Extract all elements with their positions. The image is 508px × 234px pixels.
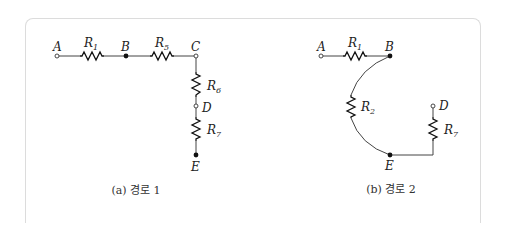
caption-path-2: (b) 경로 2 [366,183,416,196]
label-r7: R7 [206,123,222,139]
resistor-r2 [347,95,355,118]
label-node-a-b: A [316,40,326,54]
node-d [194,104,198,108]
node-d-b [431,104,435,108]
label-node-e-b: E [384,159,394,173]
label-r2: R2 [360,100,375,116]
node-e [194,153,199,158]
circuit-diagram: A B C D E R1 R5 R6 R7 (a) 경로 1 A [0,0,508,234]
label-node-b: B [120,40,130,54]
label-r7-b: R7 [443,123,459,139]
node-e-b [388,153,393,158]
label-node-a: A [52,40,62,54]
label-r5: R5 [154,36,169,52]
label-r1-b: R1 [347,36,362,52]
node-c [194,54,198,58]
resistor-r1 [80,52,104,60]
resistor-r5 [150,52,174,60]
label-node-e: E [190,160,200,174]
label-r1: R1 [83,36,98,52]
resistor-r6 [192,72,200,97]
label-node-d: D [201,101,212,115]
resistor-r1-b [343,52,367,60]
node-b-b [388,54,393,59]
label-node-d-b: D [438,99,449,113]
circuit-path-1: A B C D E R1 R5 R6 R7 (a) 경로 1 [52,36,222,197]
resistor-r7-b [429,117,437,141]
label-node-b-b: B [384,40,394,54]
node-a-b [319,54,323,58]
resistor-r7 [192,117,200,141]
caption-path-1: (a) 경로 1 [111,184,160,197]
node-a [55,54,59,58]
circuit-path-2: A B E D R1 R2 R7 (b) 경로 2 [316,36,459,196]
node-b [124,54,129,59]
label-r6: R6 [206,79,221,95]
label-node-c: C [191,40,200,54]
